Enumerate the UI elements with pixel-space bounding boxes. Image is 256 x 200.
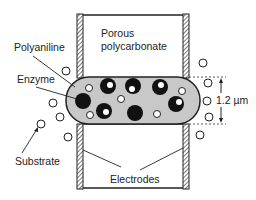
substrate-particle (154, 111, 161, 118)
enzyme-particle (75, 93, 91, 109)
membrane-label-line2: polycarbonate (101, 40, 167, 52)
substrate-particle (37, 120, 45, 128)
substrate-particle (64, 133, 72, 141)
upper-right-wall (183, 14, 189, 78)
bound-substrate (129, 86, 135, 92)
substrate-particle (203, 97, 211, 105)
bound-substrate (107, 82, 113, 88)
enzyme-label: Enzyme (17, 73, 55, 85)
substrate-particle (118, 96, 125, 103)
left-electrode (77, 124, 83, 189)
arrow-down-icon (219, 118, 223, 123)
upper-left-wall (77, 14, 83, 78)
substrate-particle (204, 79, 212, 87)
membrane-label-line1: Porous (101, 27, 134, 39)
bound-substrate (158, 82, 164, 88)
bound-substrate (176, 99, 182, 105)
substrate-particle (196, 131, 204, 139)
right-electrode (183, 124, 189, 189)
substrate-particle (205, 113, 213, 121)
substrate-particle (62, 67, 70, 75)
substrate-particle (56, 113, 64, 121)
enzyme-particle (168, 96, 184, 112)
substrate-label: Substrate (15, 155, 60, 167)
enzyme-particle (127, 105, 143, 121)
electrodes-label: Electrodes (110, 173, 160, 185)
substrate-particle (87, 112, 94, 119)
substrate-particle (179, 88, 186, 95)
substrate-leader (22, 129, 37, 153)
substrate-particle (199, 59, 207, 67)
thickness-label: 1.2 µm (216, 94, 249, 106)
substrate-particle (49, 99, 57, 107)
enzyme-electrode-diagram: 1.2 µm Porous polycarbonate Polyaniline … (0, 0, 256, 200)
bound-substrate (103, 109, 109, 115)
polyaniline-label: Polyaniline (14, 41, 65, 53)
arrow-up-icon (219, 78, 223, 83)
substrate-particle (86, 85, 93, 92)
substrate-arrow-icon (34, 127, 38, 132)
